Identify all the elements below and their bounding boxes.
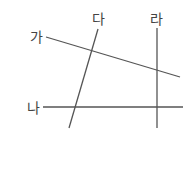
line-ga (46, 37, 180, 77)
label-na: 나 (27, 100, 40, 116)
line-diagram: 가 나 다 라 (0, 0, 194, 169)
diagram-svg: 가 나 다 라 (0, 0, 194, 169)
label-ga: 가 (30, 29, 43, 45)
label-da: 다 (92, 11, 105, 27)
label-ra: 라 (150, 11, 163, 27)
line-da (69, 29, 98, 128)
